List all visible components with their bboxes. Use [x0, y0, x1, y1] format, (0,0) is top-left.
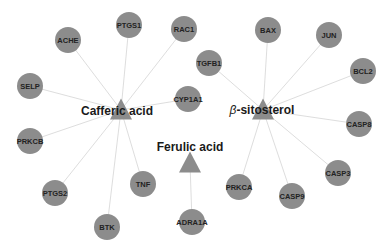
target-label: TNF: [136, 180, 151, 189]
edge-caffeic-btk: [107, 110, 121, 227]
edges-layer: [30, 25, 363, 227]
edge-sitosterol-casp9: [263, 110, 292, 196]
edge-sitosterol-jun: [263, 35, 329, 110]
target-node-rac1[interactable]: RAC1: [171, 16, 197, 42]
compound-node-ferulic[interactable]: [179, 152, 201, 173]
target-label: CASP3: [325, 169, 350, 178]
network-diagram: PTGS1RAC1ACHESELPCYP1A1PRKCBPTGS2TNFBTKT…: [0, 0, 385, 251]
target-label: PTGS1: [117, 21, 142, 30]
target-node-cyp1a1[interactable]: CYP1A1: [173, 86, 202, 112]
target-label: BCL2: [353, 67, 373, 76]
target-label: ACHE: [57, 36, 78, 45]
target-node-ache[interactable]: ACHE: [55, 27, 81, 53]
nodes-layer: PTGS1RAC1ACHESELPCYP1A1PRKCBPTGS2TNFBTKT…: [17, 12, 376, 240]
target-node-btk[interactable]: BTK: [94, 214, 120, 240]
target-label: RAC1: [174, 25, 194, 34]
target-node-prkca[interactable]: PRKCA: [226, 174, 253, 200]
compound-label-sitosterol: β-sitosterol: [229, 103, 295, 117]
target-label: TGFB1: [197, 59, 222, 68]
target-label: JUN: [321, 31, 336, 40]
target-node-tgfb1[interactable]: TGFB1: [196, 50, 222, 76]
target-node-casp3[interactable]: CASP3: [325, 160, 351, 186]
target-label: CASP8: [346, 120, 371, 129]
beta-symbol: β: [229, 103, 237, 117]
target-label: SELP: [20, 82, 40, 91]
target-node-adra1a[interactable]: ADRA1A: [176, 209, 208, 235]
target-label: BAX: [260, 26, 276, 35]
target-label: BTK: [99, 223, 115, 232]
target-node-bax[interactable]: BAX: [255, 17, 281, 43]
edge-caffeic-ache: [68, 40, 121, 110]
target-label: ADRA1A: [176, 218, 208, 227]
target-label: PRKCA: [226, 183, 253, 192]
target-node-prkcb[interactable]: PRKCB: [17, 128, 44, 154]
target-node-selp[interactable]: SELP: [17, 73, 43, 99]
compound-label-caffeic: Cafferic acid: [81, 104, 153, 118]
target-label: PRKCB: [17, 137, 44, 146]
target-node-ptgs2[interactable]: PTGS2: [42, 180, 68, 206]
edge-caffeic-ptgs2: [55, 110, 121, 193]
target-node-bcl2[interactable]: BCL2: [350, 58, 376, 84]
target-node-tnf[interactable]: TNF: [130, 171, 156, 197]
target-node-ptgs1[interactable]: PTGS1: [116, 12, 142, 38]
target-node-casp8[interactable]: CASP8: [346, 111, 372, 137]
target-node-casp9[interactable]: CASP9: [279, 183, 305, 209]
triangle-node-shape[interactable]: [179, 152, 201, 173]
target-label: PTGS2: [43, 189, 68, 198]
target-label: CYP1A1: [173, 95, 202, 104]
target-label: CASP9: [279, 192, 304, 201]
target-node-jun[interactable]: JUN: [316, 22, 342, 48]
compound-label-rest: -sitosterol: [236, 103, 294, 117]
compound-label-ferulic: Ferulic acid: [157, 140, 224, 154]
